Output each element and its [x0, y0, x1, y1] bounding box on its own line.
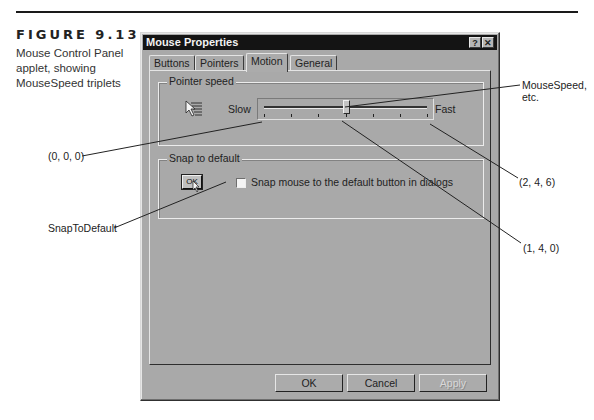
callout-mousespeed: MouseSpeed, etc. [522, 79, 594, 103]
leader-fast [430, 124, 518, 178]
leader-snaptodefault [114, 182, 226, 228]
callout-leaders [0, 0, 594, 420]
tab-motion[interactable]: Motion [246, 53, 288, 72]
callout-slow-triplet: (0, 0, 0) [48, 150, 84, 162]
leader-mousespeed [345, 85, 520, 107]
callout-middle-triplet: (1, 4, 0) [523, 242, 559, 254]
callout-fast-triplet: (2, 4, 6) [519, 176, 555, 188]
leader-slow [82, 122, 262, 156]
leader-middle [342, 121, 521, 243]
callout-snaptodefault: SnapToDefault [48, 222, 117, 234]
